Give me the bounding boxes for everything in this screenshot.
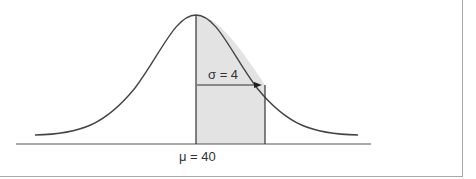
normal-curve-diagram bbox=[0, 0, 476, 179]
sigma-label: σ = 4 bbox=[208, 67, 238, 82]
mean-label: μ = 40 bbox=[179, 149, 216, 164]
